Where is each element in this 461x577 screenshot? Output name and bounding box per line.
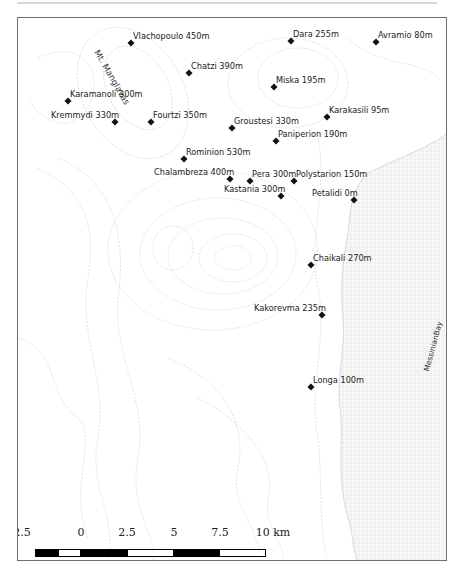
place-label: Longa 100m — [313, 376, 364, 384]
place-label: Dara 255m — [293, 30, 339, 38]
scale-segment — [35, 549, 59, 557]
place-label: Fourtzi 350m — [153, 111, 207, 119]
place-label: Vlachopoulo 450m — [133, 32, 209, 40]
place-label: Kastania 300m — [224, 185, 285, 193]
terrain-background — [18, 18, 447, 561]
place-label: Avramio 80m — [378, 31, 433, 39]
scale-tick: 0 — [78, 526, 85, 539]
scale-tick: 2.5 — [118, 526, 136, 539]
scale-segment — [58, 549, 81, 557]
place-label: Chaikali 270m — [313, 254, 372, 262]
place-label: Pera 300m — [252, 170, 296, 178]
scale-segment — [81, 549, 128, 557]
top-separator — [17, 2, 437, 4]
map-frame[interactable]: Mt. Manglavas MessinianBay Vlachopoulo 4… — [17, 17, 447, 561]
place-label: Rominion 530m — [186, 148, 250, 156]
place-label: Kakorevma 235m — [254, 304, 326, 312]
place-label: Miska 195m — [276, 76, 325, 84]
place-label: Karakasili 95m — [329, 106, 389, 114]
scale-segment — [127, 549, 174, 557]
scale-segment — [173, 549, 220, 557]
scale-tick: 2.5 — [17, 526, 31, 539]
place-label: Paniperion 190m — [278, 130, 347, 138]
place-label: Chalambreza 400m — [154, 168, 234, 176]
place-label: Chatzi 390m — [191, 62, 243, 70]
scale-tick: 7.5 — [211, 526, 229, 539]
scale-tick: 10 km — [256, 526, 291, 539]
place-label: Polystarion 150m — [296, 170, 367, 178]
place-label: Karamanoli 300m — [70, 90, 143, 98]
scale-segment — [219, 549, 266, 557]
place-label: Petalidi 0m — [312, 189, 358, 197]
place-label: Kremmydi 330m — [51, 111, 119, 119]
place-label: Groustesi 330m — [234, 117, 299, 125]
scale-tick: 5 — [171, 526, 178, 539]
